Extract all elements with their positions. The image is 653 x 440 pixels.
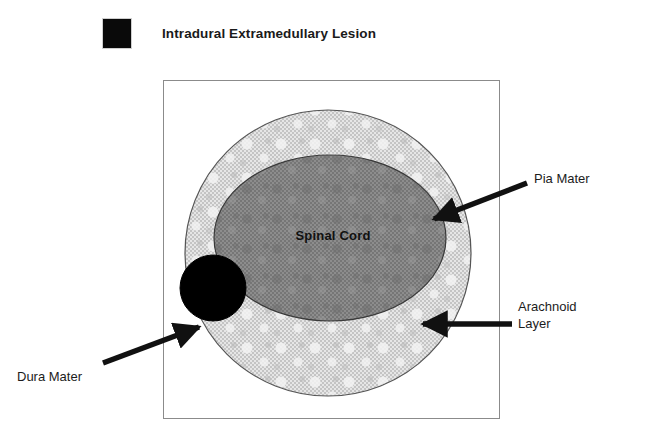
pia-mater-label: Pia Mater <box>534 170 590 187</box>
arachnoid-label-line1: Arachnoid <box>518 298 577 315</box>
legend: Intradural Extramedullary Lesion <box>103 19 376 48</box>
lesion-swatch-icon <box>103 19 131 48</box>
dura-mater-label: Dura Mater <box>17 368 82 385</box>
diagram-frame <box>163 80 500 419</box>
arachnoid-layer-label: Arachnoid Layer <box>518 298 577 332</box>
diagram-title: Intradural Extramedullary Lesion <box>162 19 376 48</box>
diagram-canvas: Intradural Extramedullary Lesion <box>0 0 653 440</box>
arachnoid-label-line2: Layer <box>518 315 577 332</box>
spinal-cord-label: Spinal Cord <box>278 228 388 243</box>
